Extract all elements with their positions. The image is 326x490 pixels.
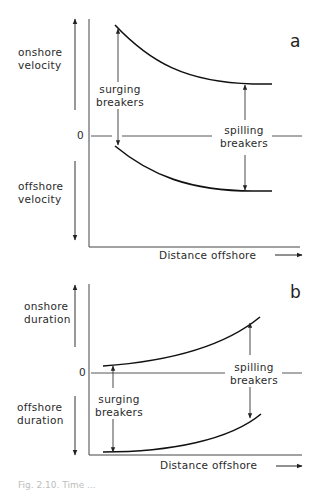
figure-caption: Fig. 2.10. Time ... — [18, 480, 96, 490]
panel-a-onshore-curve — [115, 25, 272, 84]
panel-a-label: a — [290, 31, 300, 51]
label-line: surging — [90, 393, 148, 406]
panel-b-spilling-label: spilling breakers — [226, 361, 282, 387]
label-line: duration — [17, 414, 64, 427]
label-line: offshore — [18, 180, 63, 193]
panel-b-surging-label: surging breakers — [90, 393, 148, 419]
panel-b-onshore-label: onshore duration — [24, 300, 71, 326]
panel-a-offshore-label: offshore velocity — [18, 180, 63, 206]
label-line: duration — [24, 313, 71, 326]
label-line: spilling — [216, 124, 272, 137]
label-line: breakers — [93, 96, 147, 109]
panel-a-zero-label: 0 — [77, 129, 84, 142]
label-line: onshore — [24, 300, 71, 313]
label-line: breakers — [90, 406, 148, 419]
panel-a-spilling-label: spilling breakers — [216, 124, 272, 150]
panel-a-onshore-label: onshore velocity — [18, 46, 62, 72]
label-line: spilling — [226, 361, 282, 374]
panel-b-label: b — [290, 282, 301, 302]
panel-b-x-label: Distance offshore — [160, 459, 257, 472]
label-line: breakers — [216, 137, 272, 150]
panel-a-surging-label: surging breakers — [93, 83, 147, 109]
panel-a-x-label: Distance offshore — [159, 249, 256, 262]
label-line: onshore — [18, 46, 62, 59]
label-line: breakers — [226, 374, 282, 387]
panel-b-offshore-label: offshore duration — [17, 401, 64, 427]
panel-a-offshore-curve — [115, 146, 272, 191]
panel-b-zero-label: 0 — [79, 366, 86, 379]
label-line: velocity — [18, 193, 63, 206]
panel-b-offshore-curve — [103, 414, 261, 452]
label-line: surging — [93, 83, 147, 96]
label-line: offshore — [17, 401, 64, 414]
panel-b-onshore-curve — [103, 317, 260, 366]
label-line: velocity — [18, 59, 62, 72]
